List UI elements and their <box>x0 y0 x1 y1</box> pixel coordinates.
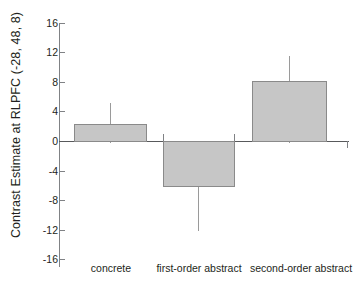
y-tick-label-0: 0 <box>52 136 58 147</box>
contrast-estimate-bar-chart: Contrast Estimate at RLPFC (-28, 48, 8) … <box>0 0 357 291</box>
bar-concrete <box>74 124 147 142</box>
y-tick-label-minus-12: -12 <box>43 225 58 236</box>
y-tick-label-16: 16 <box>46 18 58 29</box>
y-tick-label-minus-4: -4 <box>49 166 58 177</box>
plot-area: 16 12 8 4 0 -4 -8 -12 -16 concrete fi <box>0 0 357 291</box>
y-tick-minus-8 <box>59 200 65 201</box>
x-tick-group-2-start <box>163 134 164 141</box>
y-tick-8 <box>59 82 65 83</box>
y-tick-minus-4 <box>59 171 65 172</box>
y-tick-12 <box>59 52 65 53</box>
y-tick-4 <box>59 111 65 112</box>
y-tick-minus-12 <box>59 230 65 231</box>
y-tick-label-minus-8: -8 <box>49 195 58 206</box>
x-tick-axis-end <box>347 141 348 148</box>
x-tick-group-2-end <box>234 134 235 141</box>
y-tick-label-8: 8 <box>52 77 58 88</box>
bar-second-order-abstract <box>252 81 327 142</box>
x-label-first-order-abstract: first-order abstract <box>144 262 254 274</box>
bar-first-order-abstract <box>163 141 235 187</box>
y-tick-label-12: 12 <box>46 47 58 58</box>
x-label-concrete: concrete <box>70 262 152 274</box>
y-tick-16 <box>59 23 65 24</box>
y-tick-label-4: 4 <box>52 106 58 117</box>
y-tick-minus-16 <box>59 259 65 260</box>
x-label-second-order-abstract: second-order abstract <box>240 262 357 274</box>
y-tick-label-minus-16: -16 <box>43 254 58 265</box>
